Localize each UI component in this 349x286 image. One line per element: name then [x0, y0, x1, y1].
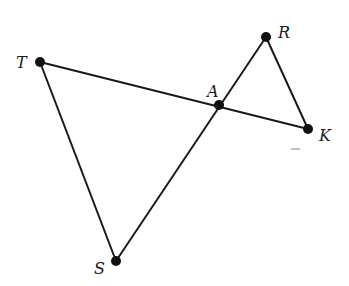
segment-RK [266, 37, 308, 129]
label-T: T [16, 53, 28, 72]
segment-TK [40, 62, 308, 129]
label-S: S [94, 259, 105, 278]
point-S [111, 256, 121, 266]
point-R [261, 32, 271, 42]
label-R: R [277, 23, 290, 42]
segment-RS [116, 37, 266, 261]
geometry-diagram: T R A K S [0, 0, 349, 286]
segment-TS [40, 62, 116, 261]
label-K: K [318, 126, 332, 145]
label-A: A [205, 82, 219, 101]
point-A [214, 100, 224, 110]
point-K [303, 124, 313, 134]
point-T [35, 57, 45, 67]
